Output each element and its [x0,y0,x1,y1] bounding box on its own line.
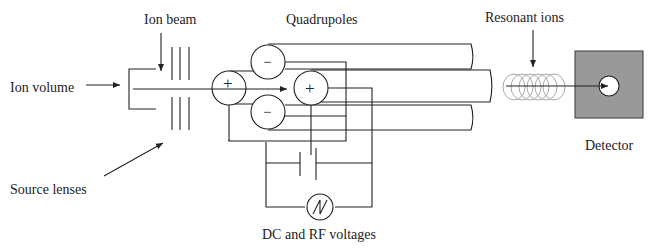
quadrupole-diagram: Ion volume Ion beam Source lenses Quadru… [0,0,652,249]
label-resonant-ions: Resonant ions [485,10,564,25]
sign-plus-right: + [305,79,315,98]
label-source-lenses: Source lenses [10,182,87,197]
sign-plus-left: + [223,74,233,93]
label-ion-volume: Ion volume [10,80,74,95]
wire-negative-to-circuit [229,105,346,141]
wire-positive-to-circuit [328,88,372,207]
resonant-ion-coil [503,74,565,100]
dc-rf-circuit [266,142,372,220]
label-detector: Detector [585,138,634,153]
label-ion-beam: Ion beam [144,12,197,27]
label-dc-rf-voltages: DC and RF voltages [262,227,376,242]
sign-minus-bottom: − [263,104,271,120]
label-quadrupoles: Quadrupoles [286,12,358,27]
sign-minus-top: − [263,54,271,70]
arrow-source-lenses [104,143,163,176]
